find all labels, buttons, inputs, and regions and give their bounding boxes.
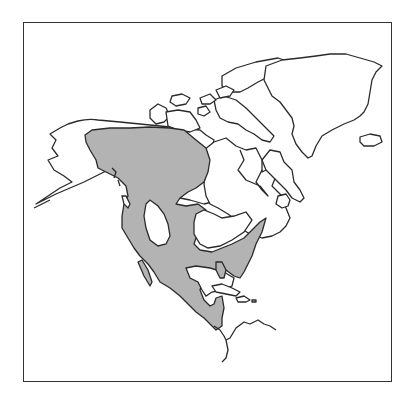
cuba: [212, 284, 240, 296]
arctic-island-5: [200, 94, 216, 104]
baffin-island: [214, 96, 274, 142]
arctic-island-4: [198, 106, 210, 116]
puerto-rico: [252, 300, 256, 302]
newfoundland: [276, 194, 290, 208]
hispaniola: [236, 296, 250, 302]
north-america-range-map: [0, 0, 412, 399]
iceland: [360, 134, 382, 146]
arctic-island-2: [170, 94, 190, 106]
central-america-coast: [214, 320, 276, 362]
